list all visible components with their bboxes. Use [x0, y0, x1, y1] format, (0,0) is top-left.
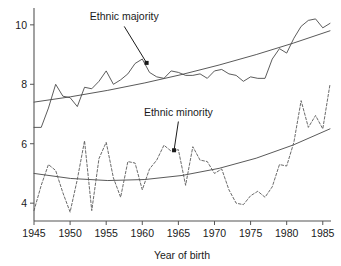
annotation-ethnic-minority: Ethnic minority	[144, 106, 214, 153]
annotation-arrowhead-ethnic-majority	[145, 61, 149, 65]
annotation-ethnic-majority: Ethnic majority	[90, 10, 160, 64]
x-tick-label: 1970	[203, 227, 227, 239]
x-tick-label: 1955	[95, 227, 119, 239]
x-tick-label: 1965	[167, 227, 191, 239]
trend-line-majority	[34, 31, 330, 102]
y-axis-ticks: 46810	[15, 19, 34, 209]
y-tick-label: 10	[15, 19, 27, 31]
x-tick-label: 1975	[239, 227, 263, 239]
annotation-arrowhead-ethnic-minority	[172, 148, 176, 152]
annotation-arrow-ethnic-majority	[124, 26, 146, 63]
y-tick-label: 4	[21, 197, 27, 209]
y-tick-label: 6	[21, 138, 27, 150]
x-tick-label: 1980	[275, 227, 299, 239]
x-axis-ticks: 194519501955196019651970197519801985	[22, 221, 334, 239]
x-tick-label: 1950	[58, 227, 82, 239]
annotation-label-ethnic-minority: Ethnic minority	[144, 106, 214, 118]
x-tick-label: 1985	[311, 227, 335, 239]
y-tick-label: 8	[21, 78, 27, 90]
chart-svg: 46810 1945195019551960196519701975198019…	[0, 0, 341, 266]
x-tick-label: 1960	[131, 227, 155, 239]
annotation-arrow-ethnic-minority	[174, 122, 178, 151]
chart-container: 46810 1945195019551960196519701975198019…	[0, 0, 341, 266]
annotation-label-ethnic-majority: Ethnic majority	[90, 10, 160, 22]
x-axis-title: Year of birth	[154, 249, 210, 261]
x-tick-label: 1945	[22, 227, 46, 239]
